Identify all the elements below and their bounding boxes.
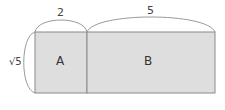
height-label: √5 [9,57,22,67]
region-b-label: B [144,55,152,67]
width-label-left: 2 [57,7,64,18]
width-label-right: 5 [147,5,154,16]
region-a-label: A [56,55,64,67]
brace-left [24,32,35,93]
brace-top-left [35,20,87,32]
rectangle-diagram [0,0,225,110]
brace-top-right [87,17,215,32]
